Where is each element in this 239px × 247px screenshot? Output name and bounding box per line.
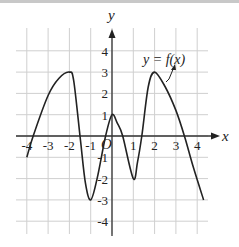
- x-tick-label: 3: [173, 138, 180, 153]
- y-axis-arrow-icon: [109, 29, 116, 38]
- y-tick-label: -3: [97, 193, 108, 208]
- y-tick-label: 3: [102, 65, 109, 80]
- y-tick-label: -4: [97, 214, 108, 229]
- function-graph: -4-3-2-112344321-1-2-3-4 x y O y = f(x): [0, 0, 239, 247]
- y-axis-label: y: [106, 7, 115, 23]
- x-axis-label: x: [221, 128, 229, 144]
- function-label-callout: y = f(x): [141, 52, 185, 82]
- x-tick-label: -2: [64, 138, 75, 153]
- function-label: y = f(x): [141, 52, 185, 68]
- y-tick-label: 1: [102, 108, 109, 123]
- x-tick-label: -3: [43, 138, 54, 153]
- axes: [16, 29, 220, 236]
- x-tick-label: 1: [130, 138, 137, 153]
- x-tick-label: -1: [85, 138, 96, 153]
- x-axis-arrow-icon: [211, 133, 220, 140]
- x-tick-label: 4: [194, 138, 201, 153]
- y-tick-label: 2: [102, 86, 109, 101]
- x-tick-label: 2: [151, 138, 158, 153]
- y-tick-label: 4: [102, 44, 109, 59]
